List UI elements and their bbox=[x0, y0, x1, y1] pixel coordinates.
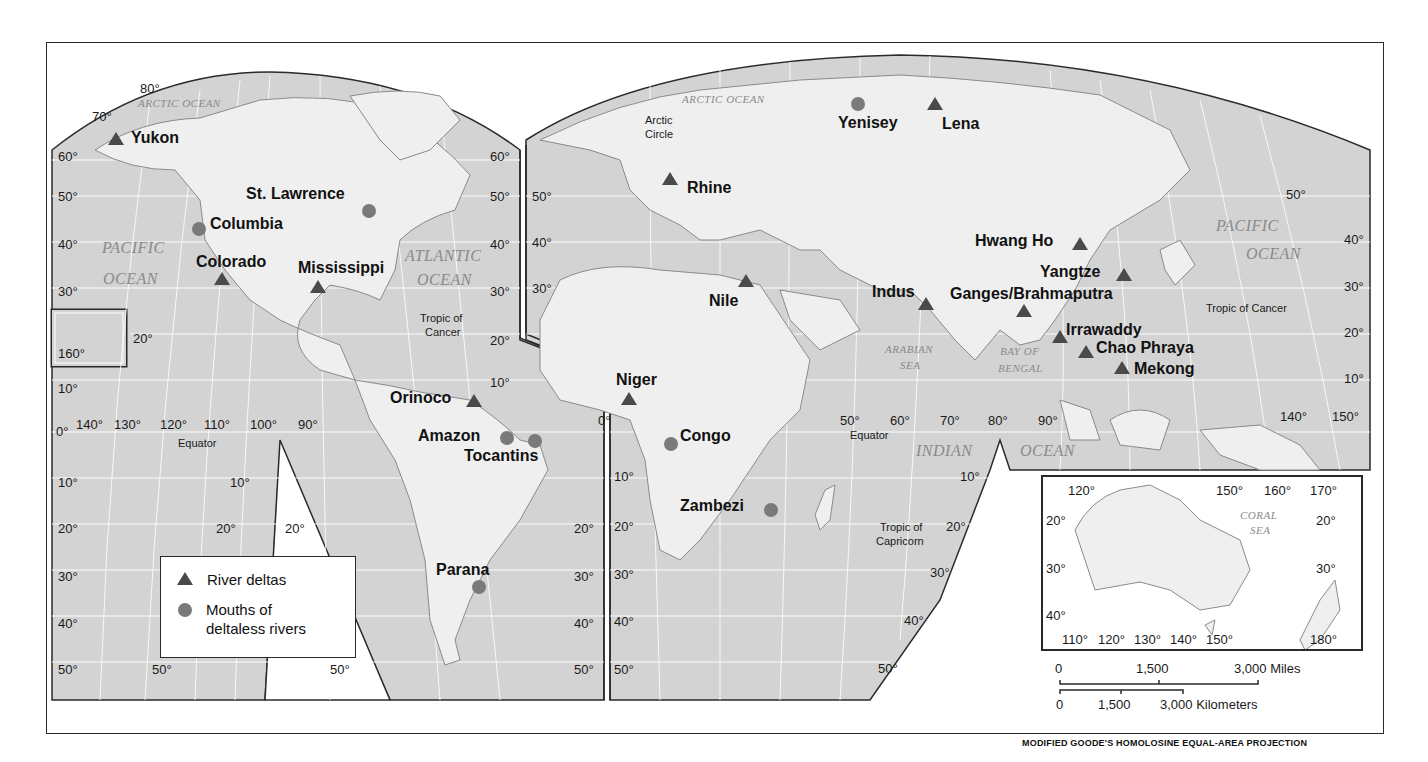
lat-label: 40° bbox=[614, 615, 634, 628]
ocean-label-arctic-west: ARCTIC OCEAN bbox=[138, 98, 221, 109]
triangle-icon bbox=[177, 572, 193, 585]
lat-label: 50° bbox=[574, 663, 594, 676]
delta-marker-indus bbox=[918, 297, 934, 310]
lat-label: 40° bbox=[58, 617, 78, 630]
lat-label: 30° bbox=[532, 282, 552, 295]
delta-marker-mississippi bbox=[310, 280, 326, 293]
lat-label: 50° bbox=[58, 190, 78, 203]
river-label-indus: Indus bbox=[872, 284, 915, 300]
lat-label: 40° bbox=[1046, 609, 1066, 622]
ocean-label-pacific-west-1: PACIFIC bbox=[102, 240, 165, 256]
lat-label: 80° bbox=[140, 82, 160, 95]
lat-label: 20° bbox=[133, 332, 153, 345]
projection-note: MODIFIED GOODE'S HOMOLOSINE EQUAL-AREA P… bbox=[1022, 738, 1307, 748]
ocean-label-coral-1: CORAL bbox=[1240, 510, 1277, 521]
river-label-amazon: Amazon bbox=[418, 428, 480, 444]
delta-marker-ganges-brahmaputra bbox=[1016, 304, 1032, 317]
lat-label: 20° bbox=[490, 334, 510, 347]
lat-label: 30° bbox=[930, 566, 950, 579]
lat-label: 40° bbox=[574, 617, 594, 630]
ocean-label-indian-1: INDIAN bbox=[916, 443, 972, 459]
lon-label: 80° bbox=[988, 414, 1008, 427]
delta-marker-yangtze bbox=[1116, 268, 1132, 281]
river-label-nile: Nile bbox=[709, 293, 738, 309]
lat-label: 20° bbox=[285, 522, 305, 535]
lat-label: 10° bbox=[960, 470, 980, 483]
lon-label: 140° bbox=[76, 418, 103, 431]
lat-label: 10° bbox=[58, 382, 78, 395]
delta-marker-chao-phraya bbox=[1078, 345, 1094, 358]
arctic-circle-label-1: Arctic bbox=[645, 115, 673, 126]
lon-label: 110° bbox=[204, 418, 230, 431]
deltaless-marker-congo bbox=[664, 437, 678, 451]
lat-label: 50° bbox=[152, 663, 172, 676]
ocean-label-arabian-2: SEA bbox=[900, 360, 920, 371]
river-label-congo: Congo bbox=[680, 428, 731, 444]
lon-label: 120° bbox=[1068, 484, 1095, 497]
river-label-colorado: Colorado bbox=[196, 254, 266, 270]
river-label-irrawaddy: Irrawaddy bbox=[1066, 322, 1142, 338]
lat-label: 70° bbox=[92, 110, 112, 123]
lon-label: 70° bbox=[940, 414, 960, 427]
scale-km-3000: 3,000 Kilometers bbox=[1160, 698, 1258, 711]
river-label-lena: Lena bbox=[942, 116, 979, 132]
river-label-tocantins: Tocantins bbox=[464, 448, 538, 464]
lat-label: 10° bbox=[58, 476, 78, 489]
lon-label: 120° bbox=[1098, 633, 1125, 646]
lat-label: 20° bbox=[58, 522, 78, 535]
ocean-label-bengal-2: BENGAL bbox=[998, 363, 1043, 374]
lat-label: 40° bbox=[58, 238, 78, 251]
lat-label: 30° bbox=[1046, 562, 1066, 575]
lat-label: 30° bbox=[58, 285, 78, 298]
tropic-capricorn-label-2: Capricorn bbox=[876, 536, 924, 547]
deltaless-marker-zambezi bbox=[764, 503, 778, 517]
lat-label: 10° bbox=[614, 470, 634, 483]
tropic-capricorn-label-1: Tropic of bbox=[880, 522, 922, 533]
lat-label: 50° bbox=[532, 190, 552, 203]
lat-label: 30° bbox=[58, 570, 78, 583]
lat-label: 30° bbox=[1316, 562, 1336, 575]
delta-marker-colorado bbox=[214, 272, 230, 285]
deltaless-marker-parana bbox=[472, 580, 486, 594]
ocean-label-indian-2: OCEAN bbox=[1020, 443, 1075, 459]
lon-label: 130° bbox=[114, 418, 141, 431]
lon-label: 60° bbox=[890, 414, 910, 427]
deltaless-marker-yenisey bbox=[851, 97, 865, 111]
lat-label: 30° bbox=[490, 285, 510, 298]
river-label-hwang-ho: Hwang Ho bbox=[975, 233, 1053, 249]
delta-marker-rhine bbox=[662, 172, 678, 185]
lat-label: 40° bbox=[490, 238, 510, 251]
lon-label: 180° bbox=[1310, 633, 1337, 646]
deltaless-marker-tocantins bbox=[528, 434, 542, 448]
delta-marker-lena bbox=[927, 97, 943, 110]
river-label-mekong: Mekong bbox=[1134, 361, 1194, 377]
lon-label: 130° bbox=[1134, 633, 1161, 646]
lon-label: 50° bbox=[840, 414, 860, 427]
ocean-label-atlantic-2: OCEAN bbox=[417, 272, 472, 288]
circle-icon bbox=[178, 603, 192, 617]
equator-west-label: Equator bbox=[178, 438, 217, 449]
deltaless-marker-columbia bbox=[192, 222, 206, 236]
lat-label: 20° bbox=[614, 520, 634, 533]
tropic-cancer-west-label-2: Cancer bbox=[425, 327, 460, 338]
lat-label: 60° bbox=[490, 150, 510, 163]
river-label-yenisey: Yenisey bbox=[838, 115, 898, 131]
land-australia bbox=[1075, 485, 1250, 610]
river-label-st-lawrence: St. Lawrence bbox=[246, 186, 345, 202]
delta-marker-yukon bbox=[108, 132, 124, 145]
lat-label: 30° bbox=[614, 568, 634, 581]
lon-label: 140° bbox=[1280, 410, 1307, 423]
lon-label: 150° bbox=[1332, 410, 1359, 423]
lon-label: 140° bbox=[1170, 633, 1197, 646]
lat-label: 20° bbox=[946, 520, 966, 533]
river-label-zambezi: Zambezi bbox=[680, 498, 744, 514]
scale-miles-0: 0 bbox=[1055, 662, 1062, 675]
ocean-label-pacific-east-2: OCEAN bbox=[1246, 246, 1301, 262]
lon-label: 90° bbox=[1038, 414, 1058, 427]
lat-label: 0° bbox=[56, 425, 68, 438]
lon-label: 160° bbox=[1264, 484, 1291, 497]
scale-km-0: 0 bbox=[1056, 698, 1063, 711]
legend-label: Mouths of bbox=[206, 601, 306, 618]
river-label-parana: Parana bbox=[436, 562, 489, 578]
lon-label: 150° bbox=[1206, 633, 1233, 646]
